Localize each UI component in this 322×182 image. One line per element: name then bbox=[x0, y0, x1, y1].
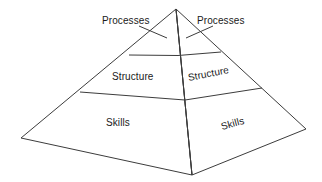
tier-divider-upper-left bbox=[129, 55, 178, 56]
pyramid-left-face bbox=[21, 9, 192, 175]
diagram-canvas: Processes Processes Structure Structure … bbox=[0, 0, 322, 182]
label-processes-right: Processes bbox=[197, 15, 245, 26]
tier-divider-lower-left bbox=[80, 92, 185, 100]
tier-divider-lower-right bbox=[185, 88, 262, 100]
label-skills-left: Skills bbox=[106, 117, 130, 128]
processes-right-leader-line bbox=[186, 26, 213, 38]
tier-divider-upper-right bbox=[178, 52, 221, 56]
pyramid-graphic bbox=[0, 0, 322, 182]
label-structure-left: Structure bbox=[112, 71, 153, 82]
label-processes-left: Processes bbox=[102, 15, 150, 26]
pyramid-center-ridge bbox=[176, 9, 192, 175]
